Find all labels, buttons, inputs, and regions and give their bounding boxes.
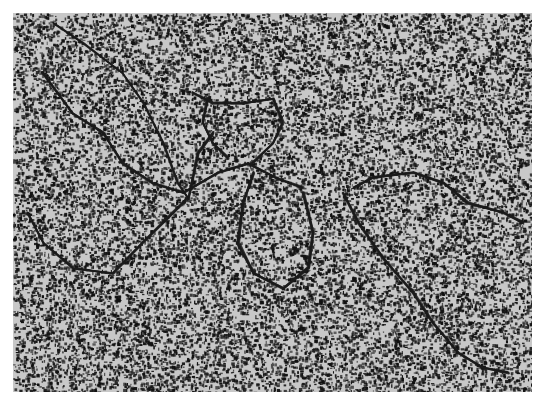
- micrograph-canvas: [13, 13, 532, 392]
- micrograph-image: [13, 13, 532, 392]
